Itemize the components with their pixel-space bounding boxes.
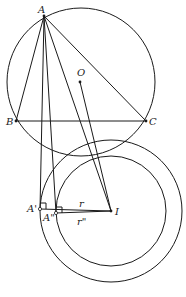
segment-A2-I (56, 211, 111, 213)
segment-A-B (16, 16, 44, 121)
label-B: B (5, 116, 13, 127)
label-O: O (77, 67, 85, 78)
point-A2 (54, 211, 57, 214)
circles-group (7, 8, 182, 282)
segment-label: r" (77, 216, 86, 227)
label-A1: A' (26, 203, 37, 214)
geometry-diagram: ABCOIA'A"rr" (0, 0, 186, 297)
segment-label: r (79, 198, 85, 209)
segment-A1-I (40, 209, 111, 211)
point-C (145, 120, 148, 123)
label-A2: A" (42, 212, 55, 223)
points-group (15, 15, 148, 215)
segment-A-C (44, 16, 146, 121)
segment-A-A1 (40, 16, 44, 209)
point-I (110, 210, 113, 213)
point-O (79, 81, 82, 84)
point-A1 (38, 207, 41, 210)
segments-group (16, 16, 146, 213)
point-B (15, 120, 18, 123)
label-I: I (114, 206, 120, 217)
labels-group: ABCOIA'A"rr" (5, 4, 157, 227)
label-C: C (149, 116, 157, 127)
segment-O-I (80, 82, 111, 211)
point-A (43, 15, 46, 18)
label-A: A (37, 4, 45, 15)
